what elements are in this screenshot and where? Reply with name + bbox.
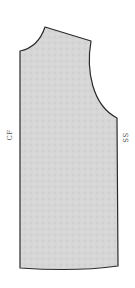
center-front-label: CF xyxy=(6,129,14,140)
pattern-outline xyxy=(20,27,118,269)
pattern-canvas: CF SS xyxy=(0,0,135,288)
side-seam-label: SS xyxy=(121,133,129,143)
bodice-pattern-piece xyxy=(0,0,135,288)
